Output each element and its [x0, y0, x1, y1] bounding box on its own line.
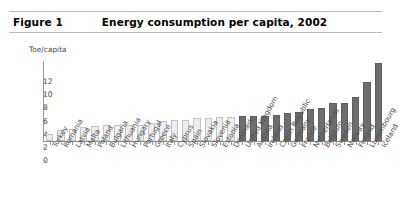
- chart-area: Toe/capita 024681012 TurkeyRomaniaLatvia…: [0, 42, 391, 206]
- figure-number-label: Figure 1: [13, 16, 63, 28]
- y-axis-unit-label: Toe/capita: [29, 45, 67, 54]
- figure-title: Energy consumption per capita, 2002: [102, 16, 327, 28]
- figure-header: Figure 1 Energy consumption per capita, …: [9, 11, 382, 33]
- x-axis-category-labels: TurkeyRomaniaLatviaMaltaPolandBulgariaLi…: [44, 145, 384, 205]
